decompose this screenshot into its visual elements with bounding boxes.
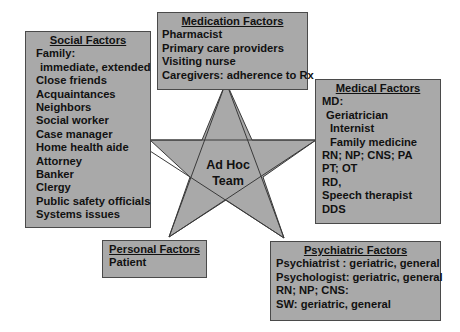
list-item: MD: — [322, 95, 440, 108]
personal-factors-title: Personal Factors — [103, 243, 206, 256]
list-item: Patient — [109, 256, 206, 269]
list-item: RN; NP; CNS: — [276, 284, 440, 297]
psychiatric-factors-list: Psychiatrist : geriatric, generalPsychol… — [276, 257, 440, 311]
social-factors-title: Social Factors — [26, 34, 150, 47]
list-item: SW: geriatric, general — [276, 298, 440, 311]
list-item: Primary care providers — [162, 42, 307, 55]
list-item: immediate, extended — [36, 61, 150, 74]
list-item: Caregivers: adherence to Rx — [162, 69, 307, 82]
list-item: DDS — [322, 203, 440, 216]
list-item: Banker — [36, 168, 150, 181]
medication-factors-box: Medication Factors PharmacistPrimary car… — [157, 12, 308, 90]
medication-factors-list: PharmacistPrimary care providersVisiting… — [162, 28, 307, 82]
list-item: Family: — [36, 47, 150, 60]
list-item: Clergy — [36, 181, 150, 194]
center-label-line1: Ad Hoc — [206, 158, 250, 172]
center-label: Ad Hoc Team — [205, 157, 251, 189]
list-item: Case manager — [36, 128, 150, 141]
list-item: Visiting nurse — [162, 55, 307, 68]
list-item: Family medicine — [322, 136, 440, 149]
list-item: Geriatrician — [322, 109, 440, 122]
list-item: RN; NP; CNS; PA — [322, 149, 440, 162]
medical-factors-list: MD:GeriatricianInternistFamily medicineR… — [322, 95, 440, 216]
list-item: Home health aide — [36, 141, 150, 154]
personal-factors-list: Patient — [109, 256, 206, 269]
psychiatric-factors-box: Psychiatric Factors Psychiatrist : geria… — [270, 241, 441, 321]
list-item: Pharmacist — [162, 28, 307, 41]
personal-factors-box: Personal Factors Patient — [102, 240, 207, 278]
list-item: Neighbors — [36, 101, 150, 114]
list-item: Speech therapist — [322, 189, 440, 202]
list-item: Close friends — [36, 74, 150, 87]
list-item: Acquaintances — [36, 88, 150, 101]
list-item: Public safety officials — [36, 195, 150, 208]
list-item: Social worker — [36, 114, 150, 127]
medical-factors-box: Medical Factors MD:GeriatricianInternist… — [315, 79, 441, 224]
list-item: PT; OT — [322, 162, 440, 175]
medication-factors-title: Medication Factors — [158, 15, 307, 28]
psychiatric-factors-title: Psychiatric Factors — [271, 244, 440, 257]
social-factors-list: Family:immediate, extendedClose friendsA… — [36, 47, 150, 221]
list-item: Systems issues — [36, 208, 150, 221]
list-item: Attorney — [36, 155, 150, 168]
list-item: RD, — [322, 176, 440, 189]
list-item: Psychologist: geriatric, general — [276, 271, 440, 284]
center-label-line2: Team — [212, 174, 244, 188]
list-item: Psychiatrist : geriatric, general — [276, 257, 440, 270]
medical-factors-title: Medical Factors — [316, 82, 440, 95]
list-item: Internist — [322, 122, 440, 135]
social-factors-box: Social Factors Family:immediate, extende… — [25, 31, 151, 228]
